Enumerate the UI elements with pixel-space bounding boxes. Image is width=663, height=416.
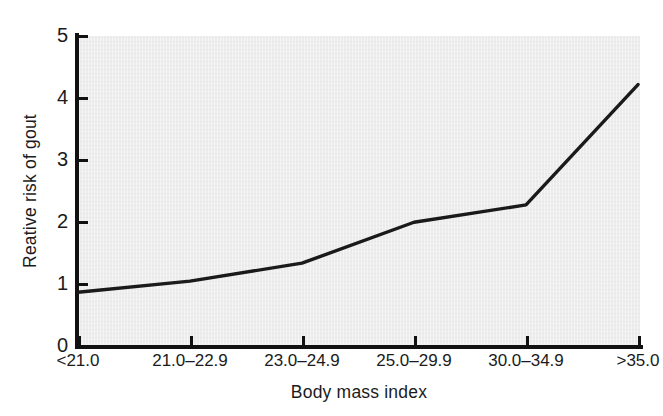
x-tick-label-3: 25.0–29.9	[354, 352, 474, 369]
y-tick-label-4: 4	[40, 87, 68, 107]
y-tick-label-2: 2	[40, 211, 68, 231]
y-tick-label-1-wrap: 1	[40, 273, 68, 293]
y-tick-3	[79, 159, 88, 162]
x-tick-5	[638, 336, 641, 345]
x-tick-3	[414, 336, 417, 345]
x-tick-label-5: >35.0	[598, 352, 663, 369]
x-tick-1	[190, 336, 193, 345]
y-tick-label-2-wrap: 2	[40, 211, 68, 231]
y-axis-line	[75, 33, 79, 349]
x-axis-title: Body mass index	[78, 382, 640, 403]
x-tick-label-1: 21.0–22.9	[130, 352, 250, 369]
y-tick-4	[79, 97, 88, 100]
paper-texture	[79, 36, 640, 346]
x-tick-label-2: 23.0–24.9	[242, 352, 362, 369]
y-tick-label-4-wrap: 4	[40, 87, 68, 107]
y-tick-label-1: 1	[40, 273, 68, 293]
x-axis-line	[75, 345, 643, 349]
plot-area	[79, 36, 640, 346]
x-tick-2	[302, 336, 305, 345]
y-axis-title: Reative risk of gout	[17, 21, 43, 361]
x-tick-4	[526, 336, 529, 345]
y-tick-label-3: 3	[40, 149, 68, 169]
x-tick-label-4: 30.0–34.9	[466, 352, 586, 369]
y-tick-label-3-wrap: 3	[40, 149, 68, 169]
gout-risk-line-chart: 5 4 3 2 1 0 <21.0 21.0–22.9 23.0–24.9 25…	[0, 0, 663, 416]
y-tick-5	[79, 35, 88, 38]
y-tick-2	[79, 221, 88, 224]
y-tick-label-5-wrap: 5	[40, 25, 68, 45]
y-tick-1	[79, 283, 88, 286]
x-tick-label-0: <21.0	[38, 352, 118, 369]
x-tick-0	[78, 336, 81, 345]
y-tick-label-5: 5	[40, 25, 68, 45]
